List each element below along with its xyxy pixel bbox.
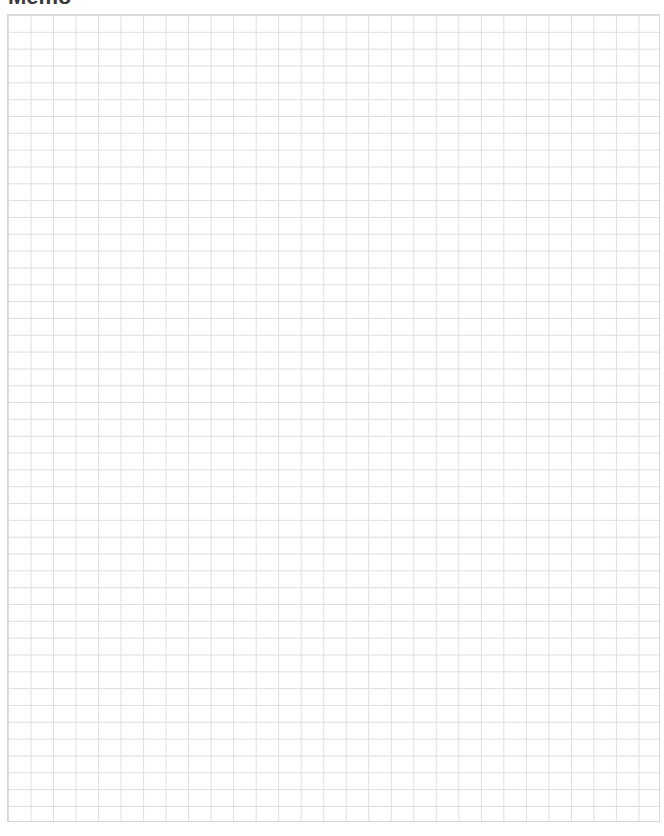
graph-paper-grid: [7, 14, 660, 822]
page-title: Memo: [8, 0, 72, 8]
